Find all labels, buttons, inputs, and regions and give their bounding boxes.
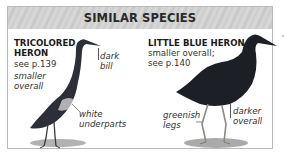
little-blue-heron-icon [0,0,285,158]
